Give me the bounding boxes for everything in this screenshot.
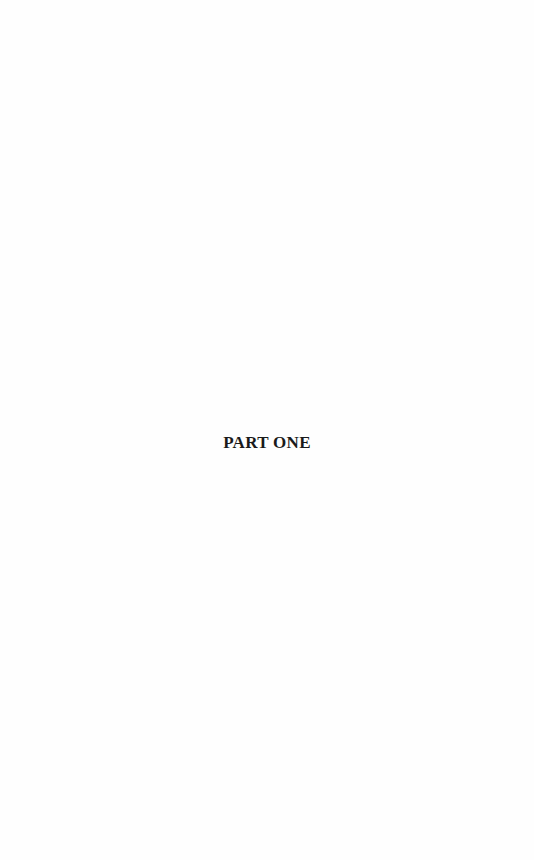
book-page: PART ONE bbox=[0, 0, 534, 860]
part-heading: PART ONE bbox=[0, 433, 534, 453]
